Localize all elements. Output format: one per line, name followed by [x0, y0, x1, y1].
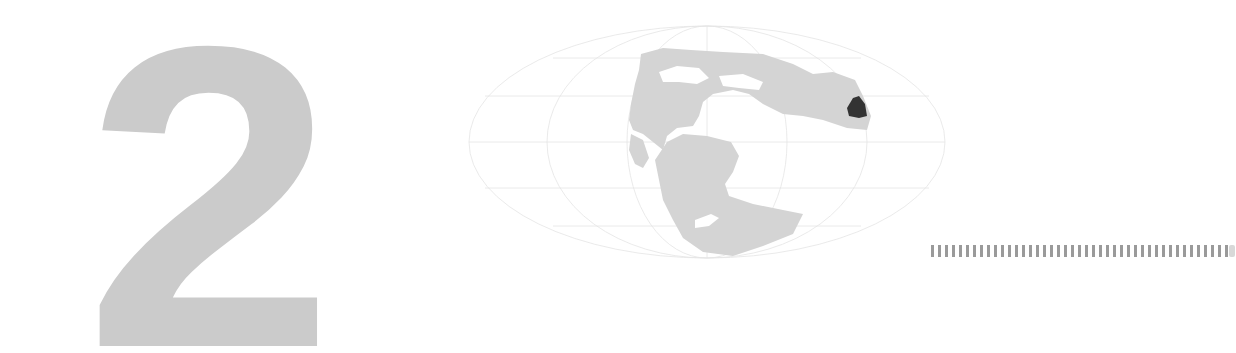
tick-bar-decoration: [931, 245, 1232, 257]
paleogeographic-globe-map: [463, 24, 951, 260]
tick-bar-end: [1229, 245, 1235, 257]
chapter-number: 2: [84, 0, 325, 353]
